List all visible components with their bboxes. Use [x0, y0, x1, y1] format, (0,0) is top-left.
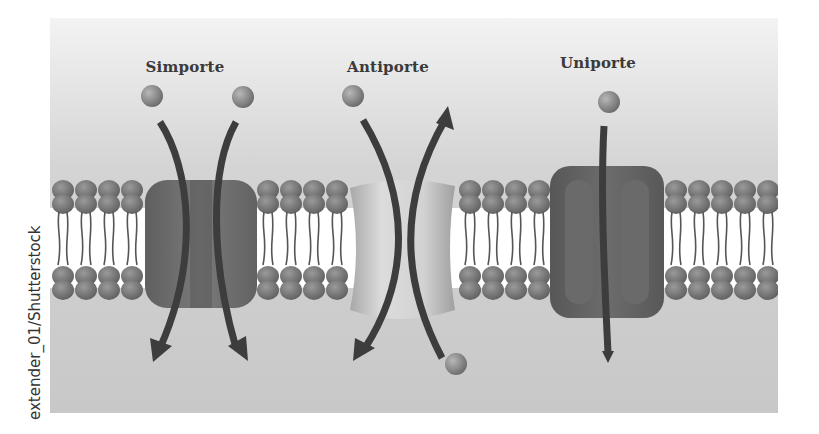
- membrane-illustration: [50, 18, 778, 413]
- antiport-protein: [350, 180, 455, 319]
- uniport-label: Uniporte: [560, 54, 636, 72]
- symport-protein: [145, 180, 257, 308]
- symport-label: Simporte: [146, 58, 225, 76]
- antiport-label: Antiporte: [347, 58, 429, 76]
- image-credit: extender_01/Shutterstock: [26, 225, 44, 420]
- membrane-transport-diagram: Simporte Antiporte Uniporte: [50, 18, 778, 413]
